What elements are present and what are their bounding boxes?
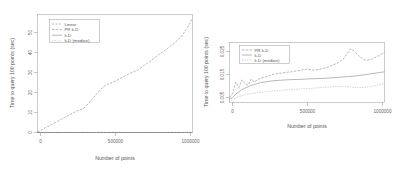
right-xtick-1m: 1000000 [374, 109, 392, 114]
left-ytick-40: 40 [28, 50, 33, 56]
left-legend-label-kd-median: k-D (median) [65, 38, 90, 43]
left-legend-label-pr-kd: PR k-D [65, 27, 79, 32]
right-chart-svg: 0.005 0.015 0.025 0 500000 1000000 Numbe… [200, 0, 400, 177]
right-xtick-500k: 500000 [300, 109, 316, 114]
left-xtick-1m: 1000000 [182, 139, 200, 144]
left-legend: Linear PR k-D k-D k-D (median) [50, 20, 100, 44]
left-chart-panel: 0 10 20 30 40 50 0 500000 1000000 Number… [0, 0, 200, 177]
right-x-axis: 0 500000 1000000 [231, 103, 392, 115]
series-line-1 [230, 72, 385, 99]
right-ytick-0015: 0.015 [220, 68, 225, 80]
right-legend: PR k-D k-D k-D (median) [240, 46, 290, 64]
left-yaxis-title: Time to query 100 points (sec) [9, 38, 15, 108]
left-ytick-10: 10 [28, 110, 33, 116]
figure-container: 0 10 20 30 40 50 0 500000 1000000 Number… [0, 0, 400, 177]
left-y-axis: 0 10 20 30 40 50 [28, 30, 37, 134]
left-legend-label-linear: Linear [65, 22, 78, 27]
left-ytick-50: 50 [28, 30, 33, 36]
left-ytick-30: 30 [28, 70, 33, 76]
left-ytick-20: 20 [28, 90, 33, 96]
left-x-axis: 0 500000 1000000 [39, 133, 200, 145]
left-xtick-0: 0 [39, 139, 42, 144]
right-chart-panel: 0.005 0.015 0.025 0 500000 1000000 Numbe… [200, 0, 400, 177]
right-xtick-0: 0 [231, 109, 234, 114]
left-chart-svg: 0 10 20 30 40 50 0 500000 1000000 Number… [0, 0, 200, 177]
left-legend-label-kd: k-D [65, 33, 72, 38]
right-yaxis-title: Time to query 100 points (sec) [203, 37, 209, 107]
right-y-axis: 0.005 0.015 0.025 [220, 45, 229, 103]
left-xtick-500k: 500000 [108, 139, 124, 144]
right-legend-label-kd-median: k-D (median) [255, 58, 280, 63]
left-ytick-0: 0 [28, 131, 33, 134]
series-line-2 [230, 83, 385, 101]
right-ytick-0025: 0.025 [220, 45, 225, 57]
right-ytick-0005: 0.005 [220, 91, 225, 103]
left-xaxis-title: Number of points [95, 155, 135, 161]
right-xaxis-title: Number of points [287, 123, 327, 129]
